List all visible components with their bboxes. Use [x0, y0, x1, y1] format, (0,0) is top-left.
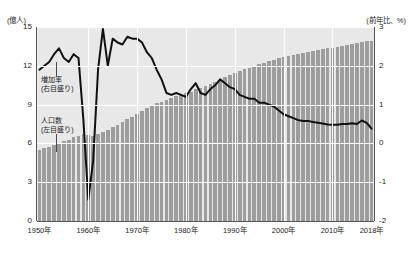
left-axis-tick-label: 6: [8, 139, 32, 147]
x-axis-tick-label: 2018年: [350, 226, 394, 235]
cropped-header-text: [6, 0, 206, 9]
growth-rate-annotation: 増加率 (右目盛り): [41, 76, 74, 93]
gridline-vertical: [332, 27, 333, 221]
growth-rate-annotation-line1: 増加率: [41, 76, 74, 85]
gridline-vertical: [137, 27, 138, 221]
plot-area: [37, 27, 374, 221]
gridline-vertical: [235, 27, 236, 221]
population-annotation-line2: (左目盛り): [41, 126, 74, 135]
population-annotation-line1: 人口数: [41, 117, 74, 126]
left-axis-tick-label: 15: [8, 23, 32, 31]
x-axis-tick-label: 1980年: [164, 226, 208, 235]
chart-figure: (億人) (前年比、%) 15129630 3210-1-2 1950年1960…: [0, 0, 411, 258]
gridline-vertical: [186, 27, 187, 221]
right-axis-tick-label: -1: [379, 178, 403, 186]
x-axis-tick-label: 1990年: [213, 226, 257, 235]
growth-rate-leader-line: [56, 62, 57, 76]
gridline-vertical: [88, 27, 89, 221]
x-axis-tick-label: 2010年: [310, 226, 354, 235]
bottom-axis-spine: [37, 221, 374, 222]
right-axis-spine: [374, 27, 375, 221]
growth-rate-annotation-line2: (右目盛り): [41, 85, 74, 94]
left-axis-tick-label: 9: [8, 101, 32, 109]
right-axis-tick-label: 2: [379, 62, 403, 70]
left-axis-tick-label: 0: [8, 217, 32, 225]
population-annotation: 人口数 (左目盛り): [41, 117, 74, 134]
left-axis-spine: [36, 27, 37, 221]
x-axis-tick-label: 1970年: [115, 226, 159, 235]
x-axis-tick-label: 2000年: [262, 226, 306, 235]
left-axis-tick-label: 3: [8, 178, 32, 186]
population-leader-line: [56, 134, 57, 152]
x-axis-tick-label: 1960年: [66, 226, 110, 235]
right-axis-tick-label: 3: [379, 23, 403, 31]
right-axis-tick-label: -2: [379, 217, 403, 225]
right-axis-tick-label: 1: [379, 101, 403, 109]
left-axis-tick-label: 12: [8, 62, 32, 70]
gridline-vertical: [284, 27, 285, 221]
x-axis-tick-label: 1950年: [17, 226, 61, 235]
right-axis-tick-label: 0: [379, 139, 403, 147]
